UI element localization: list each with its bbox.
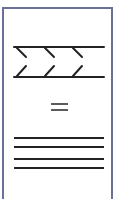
sigma-3-lower [73, 66, 82, 76]
equals-sign [51, 104, 68, 110]
sigma-1-upper [17, 48, 26, 57]
sigma-1-lower [17, 66, 26, 76]
sigma-2-lower [45, 66, 54, 76]
parallel-lines [14, 138, 104, 168]
sigma-2-upper [45, 48, 54, 57]
sigma-band [14, 47, 104, 77]
sigma-3-upper [73, 48, 82, 57]
diagram-canvas [0, 0, 118, 199]
